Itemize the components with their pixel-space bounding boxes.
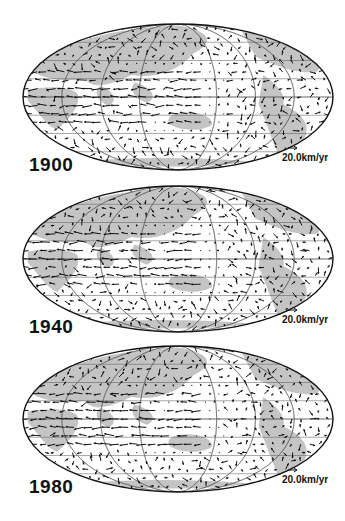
arrowhead [75,409,77,411]
arrowhead [83,443,85,445]
vector-dot [182,452,183,453]
vector-dot [196,435,197,436]
arrowhead [218,384,220,386]
arrowhead [181,401,183,403]
arrowhead [154,427,156,429]
arrowhead [218,443,220,445]
continent [31,348,207,408]
vector-dot [218,410,219,411]
arrowhead [160,435,162,437]
vector-dot [218,427,219,428]
arrowhead [22,436,24,438]
vector-dot [218,418,219,419]
arrowhead [111,410,113,412]
arrowhead [200,384,202,386]
arrowhead [261,443,263,445]
vector-dot [223,402,224,403]
arrowhead [167,410,169,412]
arrowhead [141,434,143,436]
arrowhead [111,427,113,429]
vector-dot [168,402,169,403]
arrowhead [236,408,238,410]
arrowhead [167,426,169,428]
arrowhead [96,434,98,436]
arrowhead [241,418,243,420]
continent [28,409,79,452]
arrowhead [179,468,181,470]
velocity-arrow [21,419,28,420]
arrowhead [166,477,168,479]
vector-dot [209,410,210,411]
arrowhead [204,435,206,437]
arrowhead [259,405,261,407]
arrowhead [310,426,312,428]
arrowhead [129,409,131,411]
vector-dot [136,452,137,453]
arrowhead [221,376,223,378]
arrowhead [29,392,31,394]
vector-dot [191,385,192,386]
vector-dot [154,452,155,453]
arrowhead [209,468,211,470]
scale-label: 20.0km/yr [282,474,328,485]
arrowhead [122,406,124,408]
vector-dot [210,452,211,453]
arrowhead [119,410,121,412]
arrowhead [101,426,103,428]
arrowhead [253,460,255,462]
arrowhead [53,401,55,403]
arrowhead [51,452,53,454]
arrowhead [129,442,131,444]
arrowhead [173,451,175,453]
arrowhead [242,451,244,453]
arrowhead [184,426,186,428]
arrowhead [232,488,234,490]
arrowhead [68,409,70,411]
vector-dot [219,452,220,453]
arrowhead [149,402,151,404]
year-label: 1980 [29,476,73,498]
arrowhead [287,404,289,406]
arrowhead [196,460,198,462]
arrowhead [121,418,123,420]
vector-dot [214,435,215,436]
arrowhead [300,420,302,422]
arrowhead [317,411,319,413]
arrowhead [208,384,210,386]
vector-dot [218,393,219,394]
arrowhead [299,424,301,426]
arrowhead [232,399,234,401]
arrowhead [40,444,42,446]
vector-dot [209,427,210,428]
arrowhead [184,409,186,411]
arrowhead [281,405,283,407]
arrowhead [151,435,153,437]
arrowhead [82,468,84,470]
arrowhead [256,401,258,403]
arrowhead [164,443,166,445]
arrowhead [176,426,178,428]
arrowhead [44,401,46,403]
vector-dot [205,402,206,403]
arrowhead [93,409,95,411]
vector-dot [209,418,210,419]
velocity-arrow [22,427,29,428]
continent [132,404,153,424]
arrowhead [148,444,150,446]
arrowhead [236,422,238,424]
arrowhead [138,426,140,428]
arrowhead [181,393,183,395]
arrowhead [92,418,94,420]
vector-dot [223,435,224,436]
arrowhead [52,464,54,466]
arrowhead [326,409,328,411]
arrowhead [83,427,85,429]
arrowhead [119,426,121,428]
map-panel-1980 [0,0,345,521]
vector-dot [164,410,165,411]
